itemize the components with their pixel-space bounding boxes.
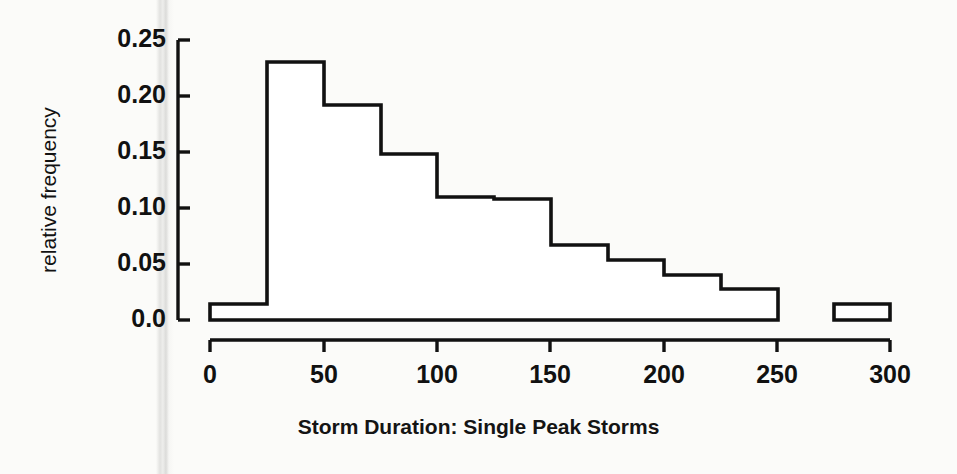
histogram-bar-last — [834, 304, 890, 320]
histogram-figure: relative frequency 0.25 0.20 0.15 0.10 0… — [0, 0, 957, 474]
x-tick-label-0: 0 — [170, 360, 250, 389]
x-axis-title: Storm Duration: Single Peak Storms — [0, 415, 957, 439]
x-tick-label-100: 100 — [397, 360, 477, 389]
x-tick-label-300: 300 — [850, 360, 930, 389]
histogram-bars — [210, 62, 778, 320]
x-tick-label-150: 150 — [510, 360, 590, 389]
x-tick-label-250: 250 — [737, 360, 817, 389]
x-tick-label-200: 200 — [624, 360, 704, 389]
x-tick-label-50: 50 — [284, 360, 364, 389]
plot-canvas — [0, 0, 957, 474]
